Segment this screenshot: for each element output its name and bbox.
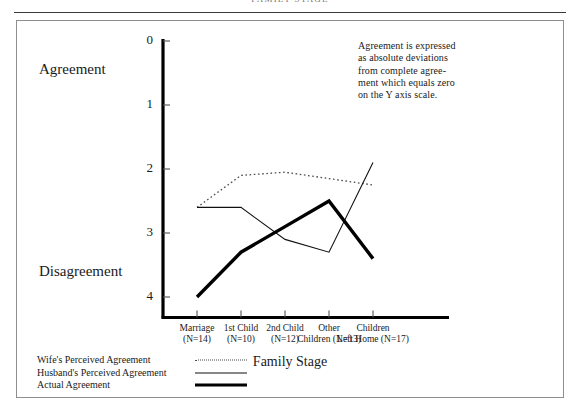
running-head-text: FAMILY STAGE [0, 0, 580, 4]
y-tick-label-4: 4 [127, 288, 153, 304]
legend-swatch-2 [189, 379, 249, 392]
legend-label-1: Husband's Perceived Agreement [37, 367, 189, 380]
header-rule [14, 12, 566, 13]
y-tick-label-3: 3 [127, 224, 153, 240]
legend-label-0: Wife's Perceived Agreement [37, 354, 189, 367]
agreement-pole-label: Agreement [39, 61, 106, 78]
legend-row-2: Actual Agreement [37, 379, 249, 392]
chart-series [197, 163, 373, 297]
y-tick-label-1: 1 [127, 96, 153, 112]
x-tick-label-4: Children Left Home (N=17) [330, 323, 416, 345]
running-head-area: FAMILY STAGE [0, 0, 580, 18]
chart-legend: Wife's Perceived AgreementHusband's Perc… [37, 354, 249, 392]
series-line-1 [197, 163, 373, 253]
series-line-0 [197, 172, 373, 207]
y-tick-label-0: 0 [127, 32, 153, 48]
legend-swatch-1 [189, 367, 249, 380]
disagreement-pole-label: Disagreement [39, 263, 122, 280]
legend-swatch-0 [189, 354, 249, 367]
legend-label-2: Actual Agreement [37, 379, 189, 392]
legend-row-1: Husband's Perceived Agreement [37, 367, 249, 380]
chart-annotation-note: Agreement is expressed as absolute devia… [358, 40, 456, 101]
legend-row-0: Wife's Perceived Agreement [37, 354, 249, 367]
y-tick-label-2: 2 [127, 160, 153, 176]
figure-frame: Agreement Disagreement Agreement is expr… [16, 20, 564, 398]
